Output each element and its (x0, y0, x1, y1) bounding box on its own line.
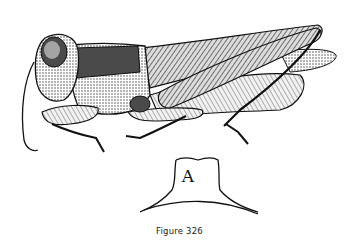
inset-label: A (178, 166, 198, 186)
figure-caption: Figure 326 (156, 226, 203, 236)
pronotum-inset-outline (140, 152, 260, 232)
figure: A Figure 326 (0, 0, 357, 252)
